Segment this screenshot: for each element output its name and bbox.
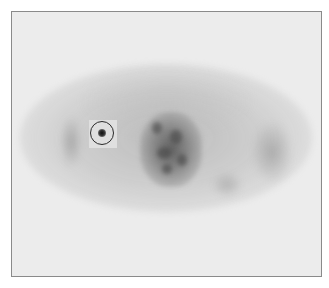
uptake-spot — [170, 130, 182, 144]
focal-lesion — [98, 129, 106, 137]
left-uptake-region — [60, 117, 82, 167]
central-uptake-region — [140, 112, 202, 187]
right-uptake-region — [252, 122, 292, 182]
uptake-spot — [162, 164, 172, 174]
scan-frame — [11, 11, 322, 277]
lower-uptake-region — [212, 172, 242, 197]
uptake-spot — [157, 147, 171, 159]
uptake-spot — [177, 154, 187, 166]
uptake-spot — [152, 122, 162, 134]
